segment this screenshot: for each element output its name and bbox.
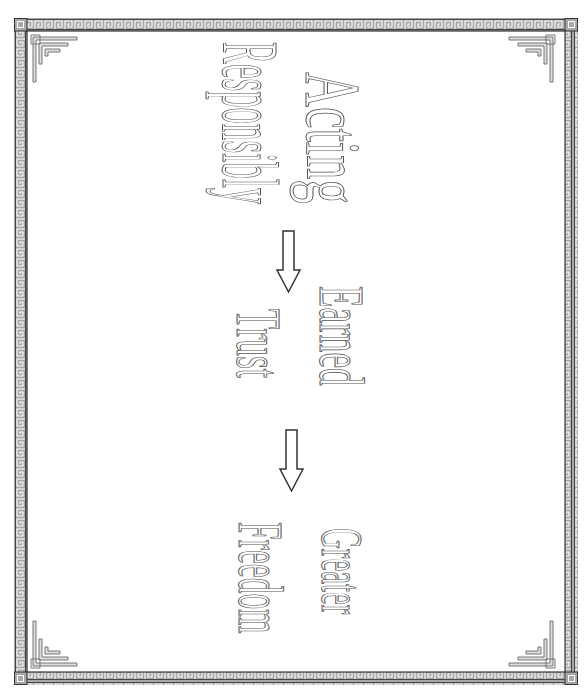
arrow-down-icon-2: [279, 428, 305, 494]
text-acting: Acting: [294, 72, 372, 204]
text-trust: Trust: [226, 309, 290, 378]
text-earned: Earned: [309, 286, 373, 386]
text-responsibly: Responsibly: [210, 42, 290, 204]
corner-ornament-top-right: [506, 34, 556, 86]
corner-ornament-bottom-right: [506, 617, 556, 669]
arrow-down-icon-1: [276, 229, 302, 295]
text-greater: Greater: [312, 528, 372, 614]
text-freedom: Freedom: [228, 522, 292, 633]
corner-ornament-top-left: [30, 34, 80, 86]
corner-ornament-bottom-left: [30, 617, 80, 669]
